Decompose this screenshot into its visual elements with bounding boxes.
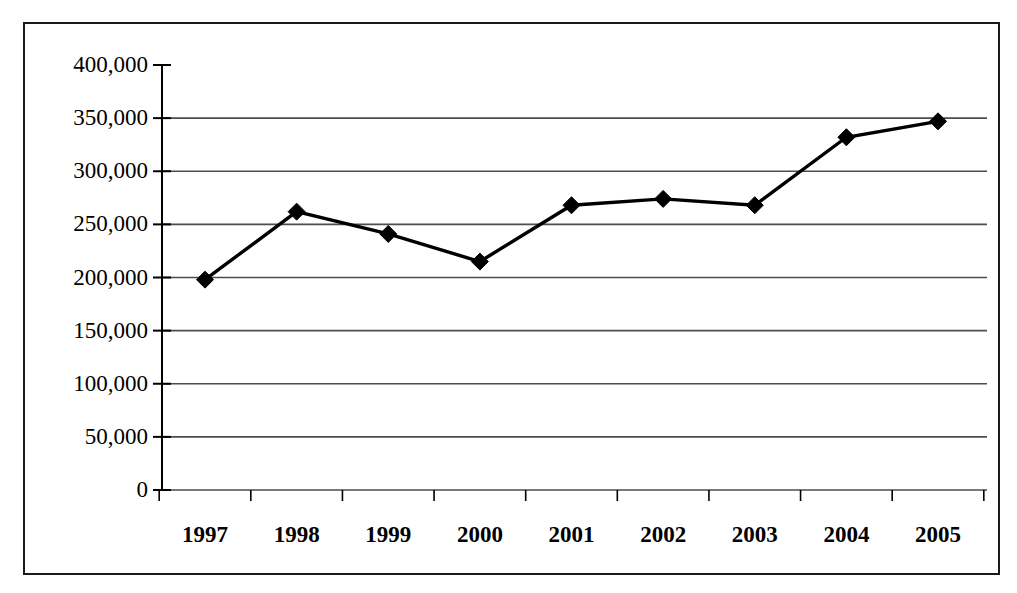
y-axis-tick-label: 250,000 [73, 212, 148, 235]
y-axis-tick-label: 100,000 [73, 372, 148, 395]
data-point-marker [930, 113, 947, 130]
y-axis-group [153, 65, 171, 490]
x-axis-tick-label: 1997 [160, 523, 250, 546]
data-point-marker [471, 253, 488, 270]
y-axis-tick-label: 150,000 [73, 319, 148, 342]
y-axis-tick-label: 300,000 [73, 159, 148, 182]
data-markers-group [197, 113, 947, 288]
data-point-marker [380, 225, 397, 242]
y-axis-tick-label: 200,000 [73, 266, 148, 289]
x-axis-ticks-group [159, 490, 984, 501]
chart-plot-area: 050,000100,000150,000200,000250,000300,0… [25, 24, 1002, 577]
x-axis-tick-label: 2001 [527, 523, 617, 546]
y-axis-tick-label: 0 [137, 478, 149, 501]
gridlines-group [162, 118, 987, 490]
y-axis-tick-label: 350,000 [73, 106, 148, 129]
x-axis-tick-label: 2004 [801, 523, 891, 546]
x-axis-tick-label: 1998 [252, 523, 342, 546]
x-axis-tick-label: 2005 [893, 523, 983, 546]
line-chart-svg [25, 24, 1002, 577]
data-point-marker [563, 197, 580, 214]
x-axis-tick-label: 1999 [343, 523, 433, 546]
y-axis-tick-label: 400,000 [73, 53, 148, 76]
chart-figure-frame: 050,000100,000150,000200,000250,000300,0… [23, 22, 1000, 575]
data-point-marker [655, 190, 672, 207]
x-axis-tick-label: 2003 [710, 523, 800, 546]
x-axis-tick-label: 2002 [618, 523, 708, 546]
y-axis-tick-label: 50,000 [85, 425, 148, 448]
x-axis-tick-label: 2000 [435, 523, 525, 546]
